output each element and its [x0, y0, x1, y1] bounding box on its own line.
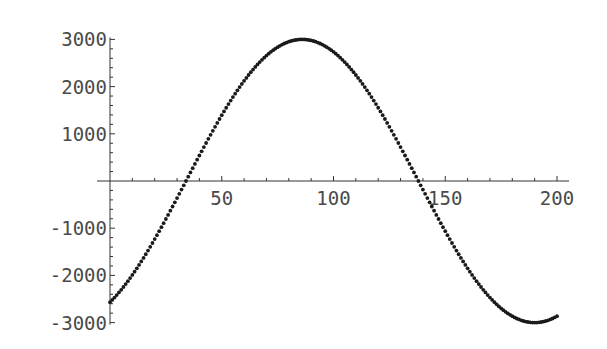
- data-point: [414, 175, 418, 179]
- data-point: [218, 117, 222, 121]
- data-point: [383, 117, 387, 121]
- data-point: [215, 121, 219, 125]
- data-point: [240, 82, 244, 86]
- data-point: [220, 113, 224, 117]
- data-point: [392, 133, 396, 137]
- data-point: [153, 237, 157, 241]
- data-point: [434, 213, 438, 217]
- data-point: [175, 196, 179, 200]
- data-point: [452, 245, 456, 249]
- data-point: [423, 192, 427, 196]
- data-point: [367, 92, 371, 96]
- data-point: [130, 273, 134, 277]
- data-point: [137, 263, 141, 267]
- data-point: [417, 179, 421, 183]
- data-point: [408, 162, 412, 166]
- data-point: [425, 196, 429, 200]
- data-point: [396, 141, 400, 145]
- data-point: [401, 149, 405, 153]
- data-point: [184, 179, 188, 183]
- y-tick-label: 3000: [61, 28, 107, 50]
- data-point: [198, 154, 202, 158]
- data-point: [403, 154, 407, 158]
- data-point: [459, 256, 463, 260]
- data-point: [419, 183, 423, 187]
- data-point: [399, 145, 403, 149]
- data-point: [376, 106, 380, 110]
- data-point: [171, 205, 175, 209]
- data-point: [133, 270, 137, 274]
- data-point: [421, 188, 425, 192]
- data-point: [157, 229, 161, 233]
- y-tick-label: -2000: [50, 264, 107, 286]
- data-point: [200, 149, 204, 153]
- data-point: [385, 121, 389, 125]
- x-tick-label: 50: [210, 187, 233, 209]
- data-point: [211, 129, 215, 133]
- data-point: [142, 256, 146, 260]
- data-point: [173, 200, 177, 204]
- data-point: [470, 273, 474, 277]
- data-point: [412, 171, 416, 175]
- data-point: [372, 99, 376, 103]
- data-point: [446, 233, 450, 237]
- data-point: [235, 88, 239, 92]
- data-point: [162, 221, 166, 225]
- data-point: [428, 200, 432, 204]
- axis-ticks: [110, 39, 557, 322]
- data-point: [229, 99, 233, 103]
- data-point: [443, 229, 447, 233]
- data-point: [238, 85, 242, 89]
- data-point: [363, 85, 367, 89]
- data-point: [146, 249, 150, 253]
- data-point: [379, 110, 383, 114]
- x-tick-label: 200: [540, 187, 574, 209]
- data-point: [365, 88, 369, 92]
- data-point: [370, 95, 374, 99]
- data-point: [466, 266, 470, 270]
- data-point: [457, 252, 461, 256]
- data-point: [209, 133, 213, 137]
- data-point: [148, 245, 152, 249]
- data-point: [468, 270, 472, 274]
- data-point: [155, 233, 159, 237]
- y-tick-label: -3000: [50, 312, 107, 334]
- data-point: [358, 79, 362, 83]
- data-point: [430, 205, 434, 209]
- y-tick-label: 2000: [61, 76, 107, 98]
- chart-plot: 50100150200-3000-2000-1000100020003000: [0, 0, 607, 349]
- data-point: [463, 263, 467, 267]
- data-point: [361, 82, 365, 86]
- data-point: [455, 249, 459, 253]
- y-tick-label: 1000: [61, 123, 107, 145]
- data-point: [450, 241, 454, 245]
- data-point: [191, 166, 195, 170]
- data-point: [405, 158, 409, 162]
- data-point: [224, 106, 228, 110]
- data-point: [222, 110, 226, 114]
- data-point: [381, 113, 385, 117]
- data-point: [193, 162, 197, 166]
- data-point: [128, 276, 132, 280]
- data-point: [182, 183, 186, 187]
- data-point: [168, 209, 172, 213]
- data-point: [437, 217, 441, 221]
- data-point: [202, 145, 206, 149]
- data-point: [387, 125, 391, 129]
- data-point: [160, 225, 164, 229]
- data-point: [472, 276, 476, 280]
- data-point: [126, 279, 130, 283]
- data-point: [394, 137, 398, 141]
- data-point: [461, 260, 465, 264]
- data-point: [166, 213, 170, 217]
- data-point: [164, 217, 168, 221]
- data-point: [144, 252, 148, 256]
- data-point: [439, 221, 443, 225]
- data-point: [204, 141, 208, 145]
- data-point: [180, 188, 184, 192]
- data-point: [227, 102, 231, 106]
- data-point: [410, 166, 414, 170]
- data-point: [441, 225, 445, 229]
- x-tick-label: 100: [316, 187, 350, 209]
- data-point: [390, 129, 394, 133]
